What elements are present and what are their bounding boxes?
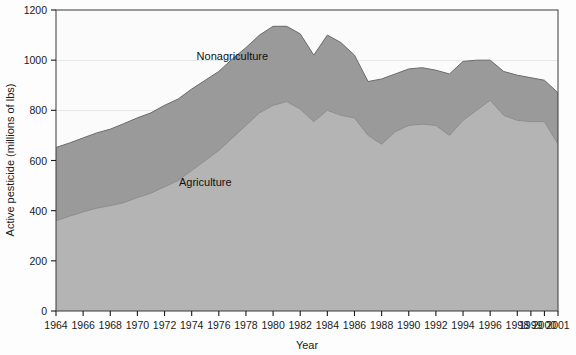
x-axis: 1964196619681970197219741976197819801982… bbox=[44, 311, 570, 331]
x-axis-tick-label: 2001 bbox=[546, 319, 570, 331]
x-axis-tick-label: 1982 bbox=[289, 319, 313, 331]
x-axis-tick-label: 1976 bbox=[207, 319, 231, 331]
series-label-agriculture: Agriculture bbox=[179, 176, 232, 188]
y-axis-tick-label: 200 bbox=[29, 255, 47, 267]
y-axis-tick-label: 800 bbox=[29, 104, 47, 116]
x-axis-title: Year bbox=[296, 339, 319, 351]
x-axis-tick-label: 1994 bbox=[451, 319, 475, 331]
chart-page: 020040060080010001200 196419661968197019… bbox=[0, 0, 576, 355]
x-axis-tick-label: 1988 bbox=[370, 319, 394, 331]
x-axis-tick-label: 1974 bbox=[180, 319, 204, 331]
y-axis-tick-label: 600 bbox=[29, 155, 47, 167]
y-axis-tick-label: 0 bbox=[41, 305, 47, 317]
y-axis-title: Active pesticide (millions of lbs) bbox=[4, 84, 16, 237]
x-axis-tick-label: 1986 bbox=[343, 319, 367, 331]
x-axis-tick-label: 1990 bbox=[397, 319, 421, 331]
series-label-nonagriculture: Nonagriculture bbox=[197, 50, 269, 62]
x-axis-tick-label: 1968 bbox=[99, 319, 123, 331]
y-axis: 020040060080010001200 bbox=[24, 4, 56, 317]
x-axis-tick-label: 1978 bbox=[234, 319, 258, 331]
y-axis-tick-label: 400 bbox=[29, 205, 47, 217]
x-axis-tick-label: 1992 bbox=[424, 319, 448, 331]
y-axis-tick-label: 1000 bbox=[24, 54, 48, 66]
x-axis-tick-label: 1996 bbox=[478, 319, 502, 331]
y-axis-tick-label: 1200 bbox=[24, 4, 48, 16]
x-axis-tick-label: 1966 bbox=[71, 319, 95, 331]
x-axis-tick-label: 1980 bbox=[261, 319, 285, 331]
stacked-area-chart: 020040060080010001200 196419661968197019… bbox=[0, 0, 576, 355]
x-axis-tick-label: 1984 bbox=[316, 319, 340, 331]
x-axis-tick-label: 1964 bbox=[44, 319, 68, 331]
x-axis-tick-label: 1972 bbox=[153, 319, 177, 331]
x-axis-tick-label: 1970 bbox=[126, 319, 150, 331]
